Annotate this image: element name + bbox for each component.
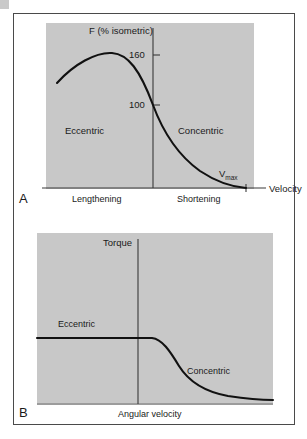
corner-artifact	[0, 0, 9, 9]
panel-a-x-label-lengthening: Lengthening	[72, 195, 122, 204]
panel-a-ytick-label-100: 100	[129, 100, 145, 110]
panel-a-y-axis-title: F (% isometric)	[89, 26, 153, 36]
panel-a-region-concentric: Concentric	[178, 126, 223, 136]
panel-a-letter: A	[19, 192, 28, 205]
panel-b-graphics	[14, 220, 296, 424]
panel-b-x-axis-title: Angular velocity	[118, 410, 182, 419]
panel-a-x-axis-title: Velocity	[269, 184, 302, 194]
panel-b: Torque Eccentric Concentric Angular velo…	[14, 220, 294, 424]
panel-a-x-label-shortening: Shortening	[177, 195, 221, 204]
panel-b-y-axis-title: Torque	[103, 238, 132, 248]
panel-b-torque-curve	[37, 338, 273, 400]
panel-a-region-eccentric: Eccentric	[65, 126, 104, 136]
panel-b-region-concentric: Concentric	[187, 367, 230, 376]
panel-a: F (% isometric) 160 100 Eccentric Concen…	[14, 14, 294, 220]
vmax-subscript: max	[225, 174, 237, 181]
panel-a-ytick-label-160: 160	[129, 50, 145, 60]
panel-a-force-velocity-curve	[57, 53, 246, 188]
panel-a-vmax-label: Vmax	[219, 169, 238, 181]
panel-b-letter: B	[19, 406, 28, 419]
panel-a-graphics	[14, 14, 296, 220]
panel-b-region-eccentric: Eccentric	[58, 320, 95, 329]
figure-frame: F (% isometric) 160 100 Eccentric Concen…	[13, 13, 295, 425]
